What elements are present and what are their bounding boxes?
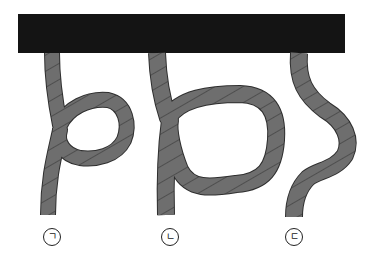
rope-b bbox=[157, 53, 276, 215]
label-a: ㄱ bbox=[43, 228, 61, 246]
rope-c bbox=[294, 53, 348, 217]
label-c: ㄷ bbox=[285, 228, 303, 246]
rope-a bbox=[48, 53, 127, 215]
rope-diagram: ㄱ ㄴ ㄷ bbox=[0, 0, 373, 268]
hanging-bar bbox=[18, 14, 345, 53]
label-b: ㄴ bbox=[161, 228, 179, 246]
